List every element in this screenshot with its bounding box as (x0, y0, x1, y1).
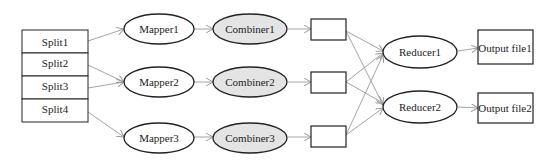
mapper-label: Mapper2 (139, 76, 179, 88)
split-label: Split1 (42, 36, 68, 48)
mapper-label: Mapper3 (139, 132, 179, 144)
reducer-label: Reducer2 (399, 101, 441, 113)
combiner-label: Combiner2 (225, 76, 275, 88)
partition-box (311, 72, 346, 93)
reducer-label: Reducer1 (399, 46, 441, 58)
mapper-label: Mapper1 (139, 23, 179, 35)
partition-box (311, 19, 346, 40)
split-label: Split4 (42, 103, 69, 115)
mapreduce-diagram: Split1 Split2 Split3 Split4 Mapper1 Mapp… (0, 0, 550, 166)
output-label: Output file1 (478, 42, 531, 54)
combiner-label: Combiner3 (225, 132, 275, 144)
partition-box (311, 126, 346, 147)
split-label: Split2 (42, 57, 68, 69)
combiner-label: Combiner1 (225, 23, 275, 35)
output-label: Output file2 (478, 102, 531, 114)
split-label: Split3 (42, 80, 69, 92)
